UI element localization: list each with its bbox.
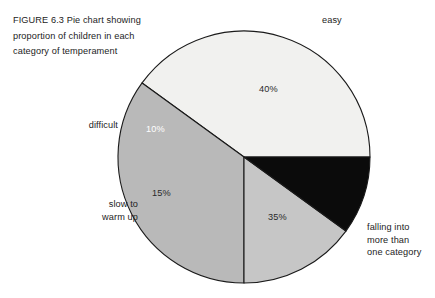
- figure-container: FIGURE 6.3 Pie chart showing proportion …: [0, 0, 435, 298]
- pie-value-falling-into-more-than-one-category: 35%: [268, 212, 287, 222]
- pie-value-easy: 40%: [259, 84, 278, 94]
- pie-value-difficult: 10%: [146, 124, 165, 134]
- pie-label-difficult: difficult: [60, 119, 118, 132]
- pie-value-slow-to-warm-up: 15%: [152, 188, 171, 198]
- pie-slices: [118, 31, 370, 283]
- pie-label-easy: easy: [322, 14, 342, 27]
- pie-label-slow-to-warm-up: slow to warm up: [76, 198, 138, 223]
- pie-label-falling-into-more-than-one-category: falling into more than one category: [367, 221, 421, 259]
